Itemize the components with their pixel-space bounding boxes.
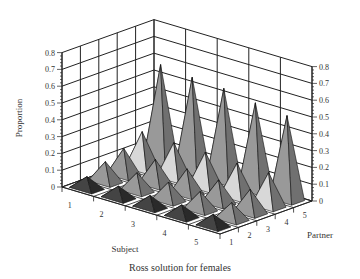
z-tick-label: 0.5 <box>45 99 55 108</box>
z-tick-label: 0.3 <box>45 133 55 142</box>
y-tick-label: 5 <box>303 211 307 220</box>
z-tick-label: 0.5 <box>319 113 329 122</box>
y-axis-title: Partner <box>307 230 333 240</box>
y-tick-label: 3 <box>266 225 270 234</box>
pyramid-markers <box>70 65 305 232</box>
z-tick-label: 0.1 <box>45 166 55 175</box>
x-tick-label: 2 <box>99 210 103 219</box>
z-tick-label: 0.8 <box>319 63 329 72</box>
z-tick-label: 0.4 <box>45 116 55 125</box>
x-tick-label: 4 <box>163 229 167 238</box>
z-tick-label: 0.4 <box>319 130 329 139</box>
z-axis-title: Proportion <box>14 98 24 137</box>
z-tick-label: 0.1 <box>319 180 329 189</box>
z-tick-label: 0 <box>51 183 55 192</box>
pyramid-3d-chart: 00.10.20.30.40.50.60.70.800.10.20.30.40.… <box>0 0 360 279</box>
x-axis-title: Subject <box>112 244 139 254</box>
z-tick-label: 0.2 <box>319 163 329 172</box>
z-tick-label: 0.6 <box>45 82 55 91</box>
z-tick-label: 0 <box>319 197 323 206</box>
chart-caption: Ross solution for females <box>0 262 360 273</box>
x-tick-label: 3 <box>131 220 135 229</box>
y-tick-label: 4 <box>284 218 288 227</box>
z-tick-label: 0.7 <box>45 65 55 74</box>
x-tick-label: 5 <box>194 238 198 247</box>
y-tick-label: 2 <box>248 231 252 240</box>
z-tick-label: 0.6 <box>319 96 329 105</box>
z-tick-label: 0.8 <box>45 49 55 58</box>
x-tick-label: 1 <box>68 201 72 210</box>
z-tick-label: 0.2 <box>45 149 55 158</box>
z-tick-label: 0.3 <box>319 147 329 156</box>
z-tick-label: 0.7 <box>319 79 329 88</box>
y-tick-label: 1 <box>229 238 233 247</box>
